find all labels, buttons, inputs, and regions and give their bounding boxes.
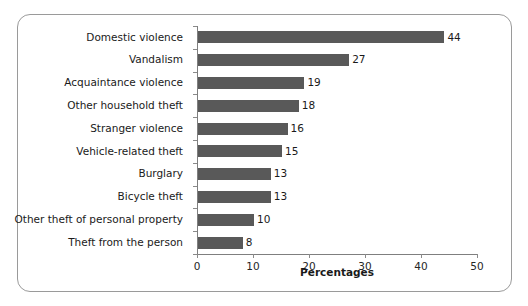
bar <box>198 100 299 112</box>
bar-value-label: 27 <box>352 52 365 67</box>
chart-figure: Domestic violenceVandalismAcquaintance v… <box>0 0 528 306</box>
x-axis-line <box>197 254 477 255</box>
y-axis-tick <box>193 231 197 232</box>
x-axis-tick <box>477 254 478 258</box>
bar <box>198 77 304 89</box>
bar-value-label: 13 <box>274 166 287 181</box>
category-axis-labels: Domestic violenceVandalismAcquaintance v… <box>0 26 190 254</box>
y-axis-tick <box>193 254 197 255</box>
category-label: Other household theft <box>67 98 183 113</box>
y-axis-tick <box>193 26 197 27</box>
bar-value-label: 10 <box>257 212 270 227</box>
category-label: Other theft of personal property <box>15 212 183 227</box>
plot-area: 010203040504427191816151313108 <box>197 26 477 254</box>
category-label: Stranger violence <box>90 121 183 136</box>
bar-value-label: 16 <box>291 121 304 136</box>
y-axis-tick <box>193 163 197 164</box>
bar-value-label: 13 <box>274 189 287 204</box>
category-label: Burglary <box>138 166 183 181</box>
x-axis-tick <box>421 254 422 258</box>
y-axis-tick <box>193 140 197 141</box>
category-label: Domestic violence <box>86 30 183 45</box>
x-axis-tick <box>365 254 366 258</box>
y-axis-tick <box>193 94 197 95</box>
bar <box>198 54 349 66</box>
bar <box>198 145 282 157</box>
y-axis-tick <box>193 208 197 209</box>
x-axis-tick <box>197 254 198 258</box>
x-axis-tick <box>253 254 254 258</box>
bar-value-label: 8 <box>246 235 253 250</box>
y-axis-tick <box>193 117 197 118</box>
bar-value-label: 19 <box>307 75 320 90</box>
x-axis-title: Percentages <box>197 266 477 279</box>
bar-value-label: 15 <box>285 144 298 159</box>
category-label: Vehicle-related theft <box>76 144 183 159</box>
y-axis-tick <box>193 72 197 73</box>
bar <box>198 123 288 135</box>
category-label: Acquaintance violence <box>64 75 183 90</box>
bar <box>198 237 243 249</box>
bar-value-label: 18 <box>302 98 315 113</box>
bar-value-label: 44 <box>447 30 460 45</box>
bar <box>198 168 271 180</box>
bar <box>198 31 444 43</box>
bar <box>198 191 271 203</box>
y-axis-tick <box>193 186 197 187</box>
category-label: Vandalism <box>129 52 183 67</box>
category-label: Theft from the person <box>68 235 183 250</box>
y-axis-tick <box>193 49 197 50</box>
x-axis-tick <box>309 254 310 258</box>
bar <box>198 214 254 226</box>
category-label: Bicycle theft <box>118 189 183 204</box>
